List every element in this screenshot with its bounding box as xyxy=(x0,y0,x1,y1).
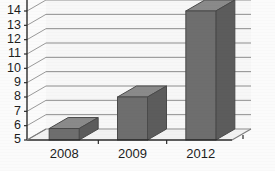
bar-front-face xyxy=(49,129,79,140)
gridline-depth-13 xyxy=(27,14,46,25)
x-category-label-2012: 2012 xyxy=(186,146,215,161)
gridline-depth-6 xyxy=(27,115,46,126)
y-tick-label-5: 5 xyxy=(14,132,21,146)
gridline-depth-12 xyxy=(27,29,46,40)
y-tick-label-7: 7 xyxy=(14,104,21,118)
y-axis-tick-labels: 567891011121314 xyxy=(7,3,21,146)
y-tick-label-13: 13 xyxy=(7,18,21,32)
y-tick-label-11: 11 xyxy=(8,46,21,60)
x-axis-category-labels: 200820092012 xyxy=(50,146,216,161)
bar-2012 xyxy=(186,0,235,140)
x-category-label-2009: 2009 xyxy=(118,146,147,161)
bar-front-face xyxy=(118,97,148,140)
gridline-depth-9 xyxy=(27,72,46,83)
gridline-depth-11 xyxy=(27,43,46,54)
gridline-depth-7 xyxy=(27,100,46,111)
y-tick-label-10: 10 xyxy=(7,61,21,75)
bar-front-face xyxy=(186,11,216,140)
gridline-depth-10 xyxy=(27,57,46,68)
gridline-depth-8 xyxy=(27,86,46,97)
y-tick-label-8: 8 xyxy=(14,89,21,103)
gridline-depth-14 xyxy=(27,0,46,11)
y-tick-label-9: 9 xyxy=(14,75,21,89)
bar-side-face xyxy=(216,0,235,140)
bar-chart: 567891011121314 200820092012 xyxy=(0,0,275,171)
y-tick-label-6: 6 xyxy=(14,118,21,132)
bar-2009 xyxy=(118,86,167,140)
y-tick-label-12: 12 xyxy=(7,32,21,46)
chart-canvas: 567891011121314 200820092012 xyxy=(0,0,275,171)
x-category-label-2008: 2008 xyxy=(50,146,79,161)
y-tick-label-14: 14 xyxy=(7,3,21,17)
